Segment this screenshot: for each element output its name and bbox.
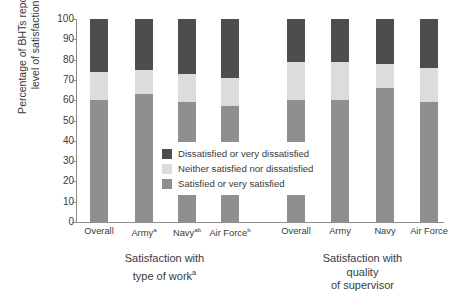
y-tick-mark [72,141,76,142]
y-tick-mark [72,80,76,81]
bar-segment-neutral [420,68,438,103]
x-axis-label-air-force: Air Force [410,226,448,236]
bar-segment-neutral [90,72,108,100]
bar-air-force [420,19,438,222]
bar-segment-satisfied [376,88,394,222]
legend-swatch-dissatisfied [162,149,172,159]
x-axis-label-overall: Overall [84,226,113,236]
bar-segment-dissatisfied [287,19,305,62]
bar-segment-dissatisfied [135,19,153,70]
y-tick-mark [72,60,76,61]
group-title-superscript: a [192,268,196,277]
bar-segment-neutral [221,78,239,106]
bar-segment-neutral [331,62,349,101]
group-title-2: Satisfaction with quality of supervisor [316,252,409,293]
x-axis-label-superscript: b [247,226,250,233]
legend-label-dissatisfied: Dissatisfied or very dissatisfied [178,148,309,159]
bar-segment-neutral [178,74,196,102]
chart-legend: Dissatisfied or very dissatisfied Neithe… [154,142,322,195]
bar-segment-neutral [287,62,305,101]
bar-segment-dissatisfied [221,19,239,78]
bar-segment-dissatisfied [331,19,349,62]
legend-swatch-neutral [162,164,172,174]
y-axis-title: Percentage of BHTs reporting level of sa… [16,0,42,150]
bar-segment-dissatisfied [90,19,108,72]
x-axis-label-superscript: a [153,226,156,233]
legend-item-neutral: Neither satisfied nor dissatisfied [162,163,313,174]
y-tick-mark [72,100,76,101]
x-axis-label-overall: Overall [281,226,310,236]
bar-navy [376,19,394,222]
bar-segment-neutral [376,64,394,88]
legend-swatch-satisfied [162,179,172,189]
bar-segment-neutral [135,70,153,94]
bar-army [331,19,349,222]
y-tick-mark [72,121,76,122]
bar-segment-satisfied [420,102,438,222]
x-axis-label-navy: Navy [374,226,395,236]
y-tick-mark [72,181,76,182]
legend-item-satisfied: Satisfied or very satisfied [162,178,313,189]
legend-item-dissatisfied: Dissatisfied or very dissatisfied [162,148,313,159]
y-tick-mark [72,161,76,162]
x-axis-label-air-force: Air Forceb [209,226,250,238]
x-axis-label-army: Army [329,226,351,236]
bar-segment-dissatisfied [420,19,438,68]
legend-label-satisfied: Satisfied or very satisfied [178,178,285,189]
y-tick-mark [72,39,76,40]
y-tick-mark [72,222,76,223]
bar-segment-dissatisfied [178,19,196,74]
y-tick-mark [72,202,76,203]
bar-segment-dissatisfied [376,19,394,64]
x-axis-label-superscript: ab [194,226,201,233]
x-axis-label-army: Armya [131,226,156,238]
bar-army [135,19,153,222]
stacked-bar-chart: Percentage of BHTs reporting level of sa… [0,0,455,299]
bar-segment-satisfied [135,94,153,222]
bar-segment-satisfied [90,100,108,222]
y-tick-mark [72,19,76,20]
bar-overall [90,19,108,222]
group-title-1: Satisfaction with type of worka [125,252,204,283]
legend-label-neutral: Neither satisfied nor dissatisfied [178,163,313,174]
bar-segment-satisfied [331,100,349,222]
x-axis-label-navy: Navyab [173,226,201,238]
y-axis-tick-labels: 0102030405060708090100 [52,12,74,228]
